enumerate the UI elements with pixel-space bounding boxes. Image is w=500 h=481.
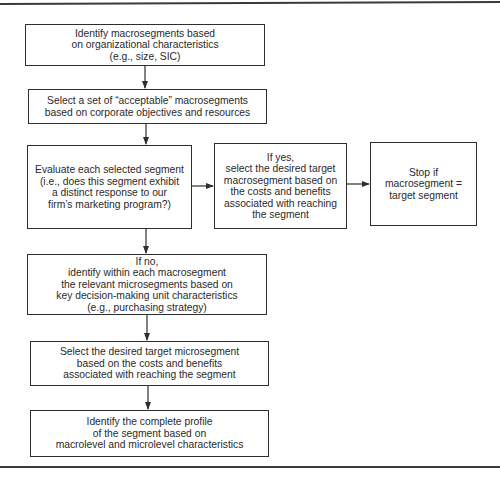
node-text: If no, identify within each macrosegment… [56, 256, 237, 314]
node-select-microsegment: Select the desired target microsegment b… [30, 341, 269, 386]
node-text: Identify macrosegments based on organiza… [71, 28, 218, 63]
node-stop: Stop if macrosegment = target segment [370, 142, 477, 226]
node-text: Identify the complete profile of the seg… [56, 416, 244, 451]
node-evaluate-segment: Evaluate each selected segment (i.e., do… [27, 145, 192, 229]
node-identify-profile: Identify the complete profile of the seg… [30, 410, 269, 457]
node-text: Evaluate each selected segment (i.e., do… [35, 164, 184, 210]
node-text: Stop if macrosegment = target segment [385, 167, 462, 202]
node-select-acceptable: Select a set of “acceptable” macrosegmen… [28, 89, 267, 124]
node-text: Select a set of “acceptable” macrosegmen… [45, 95, 251, 118]
node-text: If yes, select the desired target macros… [224, 152, 337, 221]
connectors [0, 0, 500, 481]
node-identify-macrosegments: Identify macrosegments based on organiza… [25, 24, 265, 66]
node-if-yes: If yes, select the desired target macros… [214, 143, 347, 229]
node-if-no: If no, identify within each macrosegment… [27, 254, 267, 315]
node-text: Select the desired target microsegment b… [60, 346, 239, 381]
